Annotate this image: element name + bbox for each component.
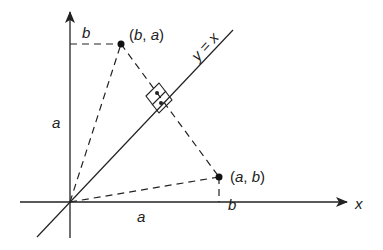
label-right-b: b <box>228 196 236 213</box>
point-ab <box>216 174 223 181</box>
label-bottom-a: a <box>137 208 145 225</box>
line-y-equals-x <box>37 30 233 237</box>
label-x-axis: x <box>354 195 363 212</box>
right-angle-dot-2 <box>159 101 163 105</box>
dashed-origin-to-ab <box>70 177 219 202</box>
dashed-origin-to-ba <box>70 44 121 202</box>
label-point-ab: (a, b) <box>230 168 265 185</box>
point-ba <box>118 41 125 48</box>
right-angle-dot-1 <box>155 91 159 95</box>
reflection-diagram: (b, a) (a, b) b a b a x y = x <box>0 0 383 250</box>
dashed-ba-to-ab <box>121 44 219 177</box>
label-point-ba: (b, a) <box>129 26 164 43</box>
label-left-a: a <box>52 114 60 131</box>
label-top-b: b <box>82 24 90 41</box>
